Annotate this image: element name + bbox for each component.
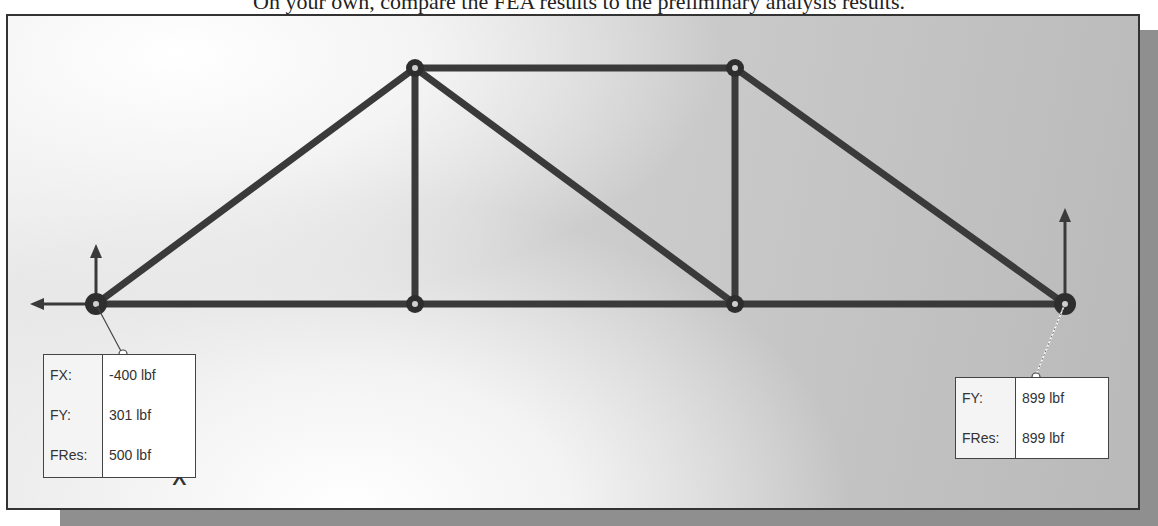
member-n2-n5[interactable] — [415, 68, 735, 304]
label-fres: FRes: — [956, 418, 1015, 458]
value-fx: -400 lbf — [103, 355, 195, 395]
value-fres: 500 lbf — [103, 435, 195, 475]
value-fy: 899 lbf — [1016, 378, 1108, 418]
label-fres: FRes: — [44, 435, 102, 475]
leader-line-left — [97, 306, 122, 353]
chevron-up-icon[interactable]: ^ — [172, 474, 187, 495]
arrowhead-icon — [90, 244, 102, 258]
value-fy: 301 lbf — [103, 395, 195, 435]
value-fres: 899 lbf — [1016, 418, 1108, 458]
arrowhead-icon — [1059, 208, 1071, 222]
arrowhead-icon — [30, 298, 44, 310]
label-fy: FY: — [44, 395, 102, 435]
reaction-callout-left[interactable]: FX: FY: FRes: -400 lbf 301 lbf 500 lbf — [43, 354, 196, 478]
member-n1-n2[interactable] — [96, 68, 415, 304]
label-fy: FY: — [956, 378, 1015, 418]
truss-members — [96, 68, 1065, 304]
label-fx: FX: — [44, 355, 102, 395]
member-n3-n6[interactable] — [735, 68, 1065, 304]
reaction-callout-right[interactable]: FY: FRes: 899 lbf 899 lbf — [955, 377, 1109, 459]
